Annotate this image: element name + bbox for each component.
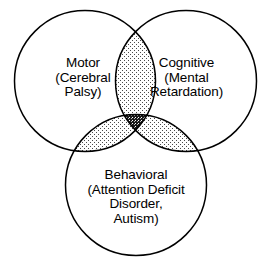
set-label-behavioral: Behavioral (Attention Deficit Disorder, … bbox=[55, 168, 217, 226]
venn-diagram-page: Motor (Cerebral Palsy) Cognitive (Mental… bbox=[0, 0, 271, 270]
set-label-cognitive-line-2: (Mental bbox=[120, 71, 253, 86]
set-label-behavioral-line-4: Autism) bbox=[55, 212, 217, 227]
set-label-cognitive-line-3: Retardation) bbox=[120, 85, 253, 100]
set-label-behavioral-line-1: Behavioral bbox=[55, 168, 217, 183]
set-label-cognitive-line-1: Cognitive bbox=[120, 56, 253, 71]
set-label-behavioral-line-2: (Attention Deficit bbox=[55, 183, 217, 198]
set-label-behavioral-line-3: Disorder, bbox=[55, 197, 217, 212]
venn-diagram-graphic bbox=[0, 0, 271, 270]
set-label-cognitive: Cognitive (Mental Retardation) bbox=[120, 56, 253, 100]
